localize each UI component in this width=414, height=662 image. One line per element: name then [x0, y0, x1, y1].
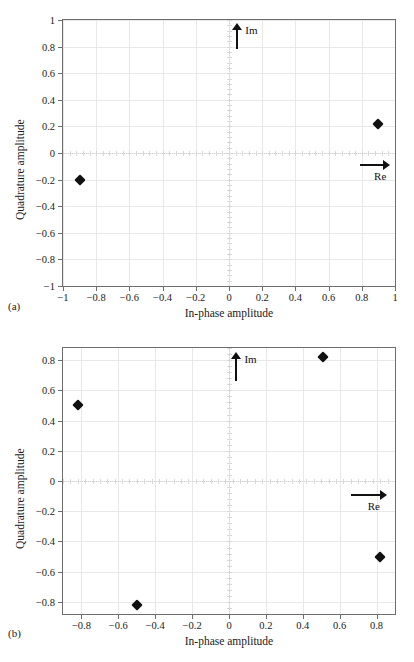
subfigure-caption-a: (a)	[8, 300, 20, 312]
minor-tick-horizontal-axis	[336, 479, 337, 484]
minor-tick-horizontal-axis	[222, 151, 223, 156]
minor-tick-vertical-axis	[227, 259, 232, 260]
y-tick-mark	[58, 511, 62, 512]
minor-tick-horizontal-axis	[143, 151, 144, 156]
x-tick-mark	[295, 287, 296, 291]
minor-tick-horizontal-axis	[216, 151, 217, 156]
y-tick-mark	[58, 100, 62, 101]
y-tick-mark	[58, 481, 62, 482]
minor-tick-horizontal-axis	[351, 479, 352, 484]
y-tick-label: 0.4	[42, 415, 55, 426]
minor-tick-horizontal-axis	[76, 151, 77, 156]
subfigure-b: ImRe −0.8−0.6−0.4−0.200.20.40.60.8−0.8−0…	[0, 331, 414, 662]
y-tick-mark	[58, 421, 62, 422]
x-tick-mark	[329, 287, 330, 291]
y-tick-mark	[58, 180, 62, 181]
minor-tick-vertical-axis	[227, 578, 232, 579]
minor-tick-horizontal-axis	[247, 479, 248, 484]
minor-tick-vertical-axis	[227, 254, 232, 255]
x-tick-mark	[163, 287, 164, 291]
minor-tick-vertical-axis	[227, 174, 232, 175]
minor-tick-vertical-axis	[227, 408, 232, 409]
minor-tick-vertical-axis	[227, 433, 232, 434]
minor-tick-horizontal-axis	[302, 151, 303, 156]
minor-tick-vertical-axis	[227, 529, 232, 530]
x-tick-label: 0.2	[256, 292, 269, 303]
minor-tick-horizontal-axis	[365, 479, 366, 484]
y-tick-label: 1	[50, 15, 55, 26]
minor-tick-horizontal-axis	[282, 151, 283, 156]
y-tick-label: 0.4	[42, 94, 55, 105]
minor-tick-horizontal-axis	[149, 151, 150, 156]
minor-tick-horizontal-axis	[156, 151, 157, 156]
minor-tick-horizontal-axis	[115, 479, 116, 484]
y-tick-label: −1	[44, 281, 55, 292]
minor-tick-horizontal-axis	[202, 151, 203, 156]
y-tick-mark	[58, 206, 62, 207]
minor-tick-horizontal-axis	[275, 151, 276, 156]
minor-tick-horizontal-axis	[123, 151, 124, 156]
x-tick-mark	[266, 615, 267, 619]
minor-tick-horizontal-axis	[122, 479, 123, 484]
x-tick-mark	[96, 287, 97, 291]
minor-tick-vertical-axis	[227, 439, 232, 440]
minor-tick-horizontal-axis	[90, 151, 91, 156]
minor-tick-vertical-axis	[227, 560, 232, 561]
minor-tick-horizontal-axis	[78, 479, 79, 484]
minor-tick-vertical-axis	[227, 222, 232, 223]
minor-tick-horizontal-axis	[314, 479, 315, 484]
x-tick-label: 0.6	[333, 620, 346, 631]
minor-tick-vertical-axis	[227, 517, 232, 518]
y-tick-label: −0.6	[36, 566, 55, 577]
minor-tick-horizontal-axis	[255, 479, 256, 484]
y-tick-label: −0.4	[36, 536, 55, 547]
y-tick-mark	[58, 602, 62, 603]
real-axis-arrow-icon	[360, 160, 390, 170]
x-tick-label: −0.8	[72, 620, 91, 631]
minor-tick-vertical-axis	[227, 63, 232, 64]
minor-tick-vertical-axis	[227, 348, 232, 349]
minor-tick-horizontal-axis	[144, 479, 145, 484]
minor-tick-vertical-axis	[227, 153, 232, 154]
minor-tick-horizontal-axis	[355, 151, 356, 156]
minor-tick-horizontal-axis	[249, 151, 250, 156]
minor-tick-horizontal-axis	[270, 479, 271, 484]
minor-tick-horizontal-axis	[163, 151, 164, 156]
minor-tick-vertical-axis	[227, 511, 232, 512]
minor-tick-horizontal-axis	[85, 479, 86, 484]
y-tick-mark	[58, 20, 62, 21]
minor-tick-vertical-axis	[227, 281, 232, 282]
minor-tick-horizontal-axis	[218, 479, 219, 484]
minor-tick-vertical-axis	[227, 94, 232, 95]
minor-tick-horizontal-axis	[70, 151, 71, 156]
minor-tick-vertical-axis	[227, 233, 232, 234]
minor-tick-vertical-axis	[227, 238, 232, 239]
minor-tick-vertical-axis	[227, 390, 232, 391]
minor-tick-horizontal-axis	[240, 479, 241, 484]
minor-tick-vertical-axis	[227, 566, 232, 567]
minor-tick-vertical-axis	[227, 57, 232, 58]
minor-tick-horizontal-axis	[299, 479, 300, 484]
minor-tick-horizontal-axis	[174, 479, 175, 484]
minor-tick-vertical-axis	[227, 505, 232, 506]
minor-tick-horizontal-axis	[129, 479, 130, 484]
y-tick-mark	[58, 73, 62, 74]
minor-tick-vertical-axis	[227, 457, 232, 458]
x-tick-mark	[262, 287, 263, 291]
minor-tick-vertical-axis	[227, 602, 232, 603]
minor-tick-horizontal-axis	[343, 479, 344, 484]
minor-tick-horizontal-axis	[284, 479, 285, 484]
y-tick-label: 0.6	[42, 385, 55, 396]
arrow-shaft	[235, 357, 237, 381]
plot-area-b: ImRe	[62, 347, 396, 615]
x-tick-label: 0.8	[355, 292, 368, 303]
x-tick-mark	[63, 287, 64, 291]
minor-tick-vertical-axis	[227, 158, 232, 159]
y-tick-label: 0	[50, 476, 55, 487]
imaginary-axis-arrow-icon	[232, 23, 242, 50]
minor-tick-horizontal-axis	[137, 479, 138, 484]
minor-tick-vertical-axis	[227, 535, 232, 536]
minor-tick-horizontal-axis	[181, 479, 182, 484]
minor-tick-vertical-axis	[227, 427, 232, 428]
y-tick-mark	[58, 259, 62, 260]
